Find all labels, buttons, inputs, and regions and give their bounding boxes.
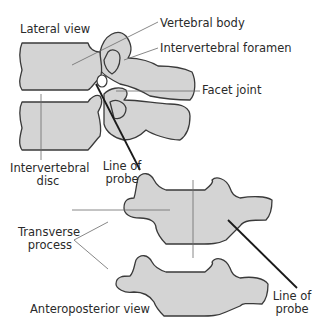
label-intervertebral-foramen: Intervertebral foramen [160,42,292,55]
label-intervertebral-disc: Intervertebral disc [10,162,86,188]
label-vertebral-body: Vertebral body [160,17,245,30]
label-line-of-probe-ap-line2: probe [268,303,316,316]
label-line-of-probe-ap: Line of probe [268,290,316,316]
label-intervertebral-disc-line2: disc [10,175,86,188]
lateral-view-title: Lateral view [20,23,90,36]
intervertebral-foramen-shape [97,75,107,87]
label-line-of-probe-lateral-line2: probe [98,173,146,186]
anteroposterior-view-title: Anteroposterior view [30,303,150,316]
label-transverse-process-line2: process [18,239,72,252]
label-facet-joint: Facet joint [202,84,261,97]
label-line-of-probe-lateral: Line of probe [98,160,146,186]
label-transverse-process: Transverse process [18,226,72,252]
ap-upper-vertebra [124,174,272,244]
